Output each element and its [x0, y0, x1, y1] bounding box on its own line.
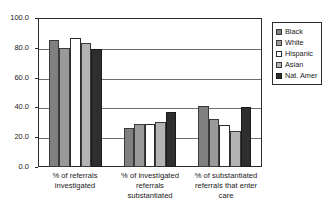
- legend-item[interactable]: Asian: [276, 59, 317, 70]
- y-tick-mark: [35, 167, 38, 168]
- legend: Black White Hispanic Asian Nat. Amer: [272, 22, 322, 85]
- y-tick-label: 80.0: [14, 44, 29, 52]
- legend-item[interactable]: Black: [276, 26, 317, 37]
- bars-layer: [38, 18, 262, 167]
- bar: [124, 128, 135, 167]
- legend-label: Asian: [285, 61, 303, 69]
- legend-swatch-icon: [276, 51, 282, 57]
- y-tick-label: 20.0: [14, 133, 29, 141]
- legend-label: Hispanic: [285, 50, 313, 58]
- bar: [49, 40, 60, 167]
- bar: [134, 124, 145, 167]
- bar: [241, 107, 252, 167]
- legend-swatch-icon: [276, 40, 282, 46]
- bar-chart: 100.0 80.0 60.0 40.0 20.0 0.0 % of refer…: [0, 0, 330, 216]
- bar: [230, 131, 241, 168]
- legend-label: White: [285, 39, 304, 47]
- bar: [198, 106, 209, 167]
- y-tick-label: 100.0: [10, 14, 29, 22]
- legend-swatch-icon: [276, 62, 282, 68]
- bar: [59, 48, 70, 167]
- y-tick-label: 40.0: [14, 103, 29, 111]
- legend-item[interactable]: Nat. Amer: [276, 70, 317, 81]
- x-category-line: % of substantiated: [178, 171, 274, 181]
- bar: [145, 124, 156, 167]
- legend-label: Black: [285, 28, 303, 36]
- legend-item[interactable]: White: [276, 37, 317, 48]
- y-tick-label: 60.0: [14, 74, 29, 82]
- x-category-label: % of substantiated referrals that enter …: [178, 171, 274, 201]
- y-tick-label: 0.0: [19, 163, 29, 171]
- x-category-line: referrals that enter: [178, 181, 274, 191]
- x-axis-labels: % of referrals investigated % of investi…: [38, 171, 262, 216]
- legend-swatch-icon: [276, 73, 282, 79]
- bar: [81, 43, 92, 167]
- legend-swatch-icon: [276, 29, 282, 35]
- bar: [155, 122, 166, 167]
- bar: [91, 49, 102, 167]
- bar: [166, 112, 177, 167]
- bar: [219, 125, 230, 167]
- legend-item[interactable]: Hispanic: [276, 48, 317, 59]
- x-category-line: care: [178, 191, 274, 201]
- bar: [209, 119, 220, 167]
- bar: [70, 38, 81, 167]
- legend-label: Nat. Amer: [285, 72, 317, 80]
